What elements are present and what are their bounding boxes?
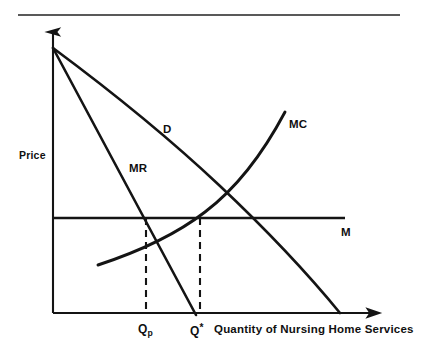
marginal-cost-curve bbox=[98, 112, 285, 265]
x-axis-label: Quantity of Nursing Home Services bbox=[214, 324, 414, 336]
economics-diagram-figure: Price D MR MC M Qp Q* Quantity of Nursin… bbox=[0, 0, 421, 355]
qstar-base: Q bbox=[190, 324, 200, 338]
marginal-revenue-curve-label: MR bbox=[129, 163, 147, 175]
qstar-superscript: * bbox=[200, 322, 204, 333]
medicaid-price-line-label: M bbox=[341, 227, 351, 239]
qp-subscript: p bbox=[148, 328, 153, 338]
marginal-revenue-curve bbox=[53, 48, 196, 315]
optimal-quantity-tick-label: Q* bbox=[190, 323, 204, 337]
y-axis-label: Price bbox=[19, 150, 46, 161]
private-quantity-tick-label: Qp bbox=[138, 323, 153, 337]
diagram-canvas bbox=[0, 0, 421, 355]
qp-base: Q bbox=[138, 322, 148, 336]
demand-curve bbox=[53, 48, 340, 313]
demand-curve-label: D bbox=[163, 124, 172, 136]
marginal-cost-curve-label: MC bbox=[289, 119, 307, 131]
